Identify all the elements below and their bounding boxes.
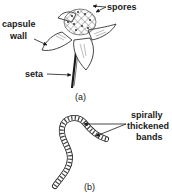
caption-panel-b: (b) [84,182,95,192]
bands-arrow-2 [96,124,126,136]
capsule-drawing [42,9,116,88]
seta-arrow [47,74,71,75]
capsule-wall-valve-left [42,32,72,51]
label-spores: spores [107,2,137,12]
diagram-artwork [0,0,172,194]
capsule-wall-arrow [34,39,47,45]
label-bands: bands [136,132,163,142]
caption-panel-a: (a) [75,92,86,102]
label-spirally: spirally [131,110,163,120]
spores-arrow-2 [96,7,106,12]
elater-drawing [55,118,106,186]
seta-stalk [72,52,76,88]
label-seta: seta [25,69,43,79]
label-capsule-wall-line2: wall [10,31,27,41]
label-thickened: thickened [127,121,169,131]
spores-arrow-1 [93,6,106,7]
label-capsule-wall-line1: capsule [2,19,36,29]
